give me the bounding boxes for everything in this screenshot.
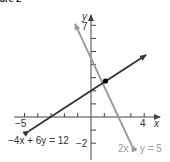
line-neg4x-plus-6y-eq-12	[29, 55, 146, 131]
x-axis-ticks	[25, 113, 145, 117]
intersection-point	[103, 78, 108, 83]
y-tick-7: 7	[82, 21, 88, 32]
equation-label-dark: −4x + 6y = 12	[8, 135, 69, 146]
x-tick-neg5: −5	[15, 118, 27, 129]
graph-plot: y 7 −5 4 x −2 −4x + 6y = 12 2x + y = 5	[0, 0, 170, 162]
equation-label-gray: 2x + y = 5	[118, 143, 162, 154]
x-tick-4: 4	[140, 118, 146, 129]
y-axis-ticks	[91, 25, 96, 143]
line-2x-plus-y-eq-5	[75, 24, 132, 146]
x-axis-label: x	[153, 118, 160, 129]
y-tick-neg2: −2	[76, 138, 88, 149]
x-axis	[14, 113, 160, 117]
